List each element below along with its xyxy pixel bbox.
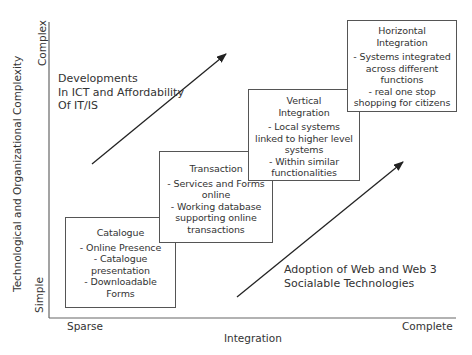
- stage-title: Integration: [249, 107, 359, 119]
- stage-item: - Systems integrated: [348, 51, 456, 63]
- stage-item: functionalities: [249, 167, 359, 179]
- annotation-line: Adoption of Web and Web 3: [284, 263, 437, 277]
- stage-item: supporting online: [160, 212, 272, 224]
- web-adoption-annotation: Adoption of Web and Web 3 Socialable Tec…: [284, 263, 437, 290]
- stage-item: linked to higher level: [249, 133, 359, 145]
- stage-item: - Catalogue: [66, 253, 175, 265]
- annotation-line: Of IT/IS: [58, 99, 184, 113]
- stage-item: - Working database: [160, 201, 272, 213]
- stage-title: Integration: [348, 37, 456, 49]
- stage-item: Forms: [66, 288, 175, 300]
- stage-item: - Online Presence: [66, 242, 175, 254]
- stage-item: - real one stop: [348, 86, 456, 98]
- x-axis-label: Integration: [224, 332, 282, 344]
- x-axis-low-label: Sparse: [67, 320, 103, 332]
- stage-item: transactions: [160, 224, 272, 236]
- annotation-line: Developments: [58, 72, 184, 86]
- annotation-line: Socialable Technologies: [284, 277, 437, 291]
- stage-item: across different: [348, 63, 456, 75]
- annotation-line: In ICT and Affordability: [58, 86, 184, 100]
- x-axis-high-label: Complete: [402, 320, 453, 332]
- stage-vertical-integration-box: Vertical Integration - Local systems lin…: [248, 89, 360, 181]
- stage-item: - Within similar: [249, 156, 359, 168]
- ict-development-annotation: Developments In ICT and Affordability Of…: [58, 72, 184, 113]
- stage-item: presentation: [66, 265, 175, 277]
- stage-title: Horizontal: [348, 25, 456, 37]
- stage-item: online: [160, 189, 272, 201]
- stage-horizontal-integration-box: Horizontal Integration - Systems integra…: [347, 20, 457, 112]
- y-axis-label: Technological and Organizational Complex…: [11, 72, 23, 292]
- stage-item: shopping for citizens: [348, 97, 456, 109]
- y-axis-low-label: Simple: [33, 276, 45, 314]
- stage-title: Vertical: [249, 95, 359, 107]
- stage-item: - Local systems: [249, 121, 359, 133]
- y-axis-high-label: Complex: [36, 22, 48, 66]
- stage-item: - Downloadable: [66, 276, 175, 288]
- stage-item: systems: [249, 144, 359, 156]
- stage-item: functions: [348, 74, 456, 86]
